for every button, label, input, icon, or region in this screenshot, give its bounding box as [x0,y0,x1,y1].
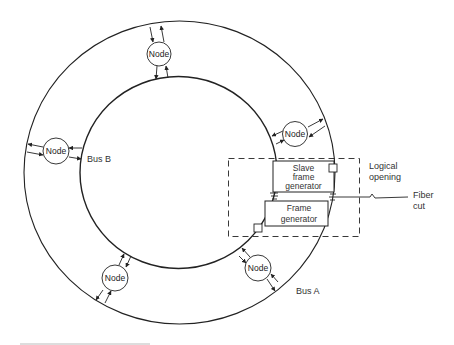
node-label: Node [149,49,170,59]
logical-opening-label: opening [369,172,401,182]
dual-bus-ring-diagram: Node Node Node Node Node [0,0,454,345]
node-left: Node [27,138,82,164]
fiber-cut-pointer [336,194,408,198]
bus-a-label: Bus A [296,286,320,296]
fiber-cut-label: Fiber [413,190,434,200]
node-label: Node [285,129,306,139]
fiber-cut-label: cut [413,201,426,211]
node-bottom-left: Node [96,254,131,303]
node-bottom-right: Node [239,248,278,291]
frame-generator: Frame generator [254,201,328,232]
svg-text:generator: generator [285,181,322,191]
terminator-square [329,164,337,172]
logical-opening-label: Logical [369,161,398,171]
svg-text:Frame: Frame [287,203,312,213]
node-top: Node [147,26,171,79]
terminator-square [254,224,262,232]
svg-text:generator: generator [281,214,318,224]
slave-frame-generator: Slave frame generator [273,161,337,192]
break-mark-icon [270,193,336,200]
node-label: Node [105,273,126,283]
bus-b-inner-ring [80,77,277,269]
node-label: Node [46,146,67,156]
bus-b-label: Bus B [87,154,111,164]
node-label: Node [248,263,269,273]
node-right: Node [272,119,325,147]
